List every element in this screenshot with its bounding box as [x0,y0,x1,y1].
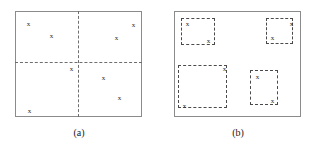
data-point-marker: x [184,21,191,28]
panel-a-vertical-divider [78,11,79,117]
data-point-marker: x [269,35,276,42]
data-point-marker: x [26,108,33,115]
data-point-marker: x [205,38,212,45]
panel-a-horizontal-divider [15,62,142,63]
data-point-marker: x [113,35,120,42]
data-point-marker: x [181,103,188,110]
data-point-marker: x [288,21,295,28]
figure-root: xxxxxxxx xxxxxxxx (a) (b) [0,0,317,151]
data-point-marker: x [254,74,261,81]
data-point-marker: x [25,21,32,28]
data-point-marker: x [100,75,107,82]
data-point-marker: x [68,66,75,73]
caption-panel-a: (a) [59,127,99,139]
data-point-marker: x [48,33,55,40]
data-point-marker: x [269,98,276,105]
data-point-marker: x [221,66,228,73]
panel-a: xxxxxxxx [15,11,142,117]
data-point-marker: x [130,22,137,29]
panel-b: xxxxxxxx [174,11,301,117]
caption-panel-b: (b) [218,127,258,139]
data-point-marker: x [116,95,123,102]
